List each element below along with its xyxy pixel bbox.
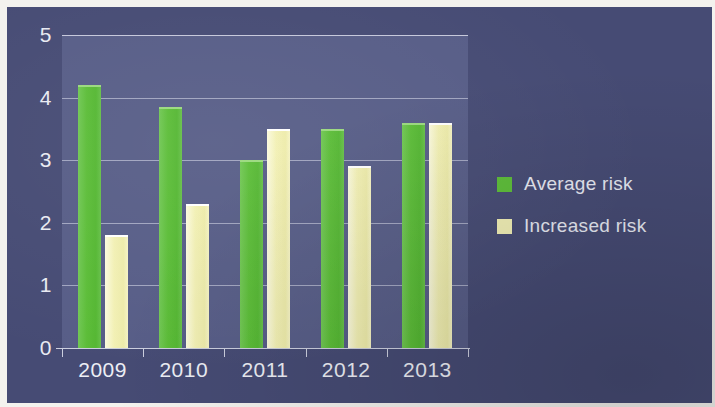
bar-average-risk-2013: [402, 123, 425, 348]
bar-average-risk-2010: [159, 107, 182, 348]
paper-edge-bottom: [0, 403, 715, 407]
bar-chart-figure: 543210 20092010201120122013 Average risk…: [0, 0, 715, 407]
y-axis-tick-label: 5: [22, 24, 52, 45]
x-axis-line: [56, 348, 470, 349]
y-axis-tick-label: 1: [22, 274, 52, 295]
y-axis-tick-label: 3: [22, 149, 52, 170]
x-axis-tick: [143, 349, 144, 357]
bar-average-risk-2011: [240, 160, 263, 348]
paper-edge-left: [0, 0, 7, 407]
bar-increased-risk-2011: [267, 129, 290, 348]
x-axis-label-2012: 2012: [306, 358, 387, 382]
y-axis-tick-label: 0: [22, 337, 52, 358]
x-axis-tick: [306, 349, 307, 357]
legend-swatch-icon: [497, 177, 512, 192]
x-axis-tick: [62, 349, 63, 357]
x-axis-labels: 20092010201120122013: [62, 358, 468, 392]
y-axis-tick-label: 2: [22, 212, 52, 233]
bar-increased-risk-2013: [429, 123, 452, 348]
bar-group: [387, 35, 468, 348]
x-axis-label-2013: 2013: [387, 358, 468, 382]
bar-average-risk-2012: [321, 129, 344, 348]
paper-edge-top: [0, 0, 715, 7]
x-axis-tick: [468, 349, 469, 357]
legend-swatch-icon: [497, 219, 512, 234]
x-axis-label-2010: 2010: [143, 358, 224, 382]
legend-item-average-risk[interactable]: Average risk: [497, 172, 697, 196]
x-axis-tick: [224, 349, 225, 357]
bar-group: [224, 35, 305, 348]
y-axis: 543210: [14, 0, 52, 407]
bar-average-risk-2009: [78, 85, 101, 348]
bar-increased-risk-2009: [105, 235, 128, 348]
x-axis-label-2009: 2009: [62, 358, 143, 382]
legend-label: Increased risk: [524, 215, 646, 237]
bar-increased-risk-2012: [348, 166, 371, 348]
legend-label: Average risk: [524, 173, 633, 195]
bar-increased-risk-2010: [186, 204, 209, 348]
plot-area: [62, 35, 468, 348]
y-axis-tick-label: 4: [22, 87, 52, 108]
bar-group: [306, 35, 387, 348]
x-axis-tick: [387, 349, 388, 357]
bar-group: [143, 35, 224, 348]
legend-item-increased-risk[interactable]: Increased risk: [497, 214, 697, 238]
bar-group: [62, 35, 143, 348]
chart-legend: Average riskIncreased risk: [497, 172, 697, 256]
x-axis-label-2011: 2011: [224, 358, 305, 382]
